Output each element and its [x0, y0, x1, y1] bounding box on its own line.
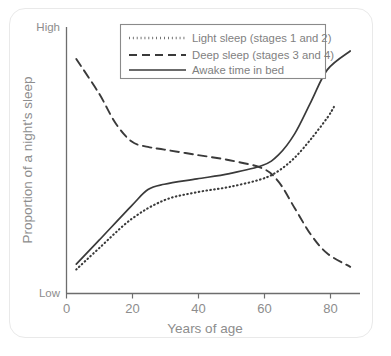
- x-tick-label-20: 20: [125, 301, 139, 316]
- y-axis-title: Proportion of a night's sleep: [20, 77, 35, 244]
- x-tick-label-0: 0: [63, 301, 70, 316]
- y-axis-low-label: Low: [39, 287, 61, 299]
- x-tick-label-40: 40: [191, 301, 205, 316]
- figure-root: High Low Proportion of a night's sleep 0…: [0, 0, 391, 356]
- legend-label-light-sleep: Light sleep (stages 1 and 2): [192, 32, 332, 44]
- chart-series-group: [76, 51, 350, 270]
- series-deep-sleep: [76, 59, 350, 267]
- x-tick-label-80: 80: [323, 301, 337, 316]
- legend-label-awake-time: Awake time in bed: [192, 64, 284, 76]
- x-axis-title: Years of age: [167, 321, 242, 336]
- sleep-proportion-line-chart: High Low Proportion of a night's sleep 0…: [0, 0, 391, 356]
- chart-legend: Light sleep (stages 1 and 2) Deep sleep …: [121, 25, 335, 79]
- y-axis-high-label: High: [36, 21, 60, 33]
- legend-label-deep-sleep: Deep sleep (stages 3 and 4): [192, 49, 334, 61]
- x-tick-label-60: 60: [257, 301, 271, 316]
